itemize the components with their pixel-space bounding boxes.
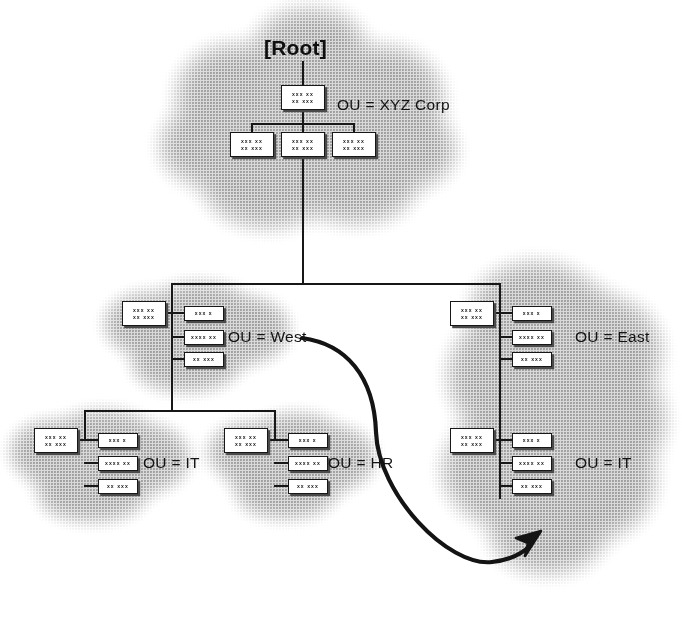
label-ou-it-east: OU = IT <box>575 455 632 471</box>
label-ou-hr-west: OU = HR <box>328 455 393 471</box>
label-ou-east: OU = East <box>575 329 650 345</box>
label-layer: [Root] OU = XYZ Corp OU = West OU = East… <box>0 0 682 636</box>
label-ou-west: OU = West <box>228 329 307 345</box>
ou-hierarchy-diagram: xxx xx xx xxx xxx xx xx xxx xxx xx xx xx… <box>0 0 682 636</box>
root-label: [Root] <box>264 37 327 58</box>
label-ou-it-west: OU = IT <box>143 455 200 471</box>
label-ou-xyz-corp: OU = XYZ Corp <box>337 97 450 113</box>
